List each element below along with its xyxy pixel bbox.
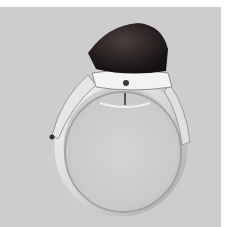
cabochon-stone bbox=[88, 23, 168, 74]
ring-band-shadow bbox=[65, 92, 181, 212]
ring-illustration bbox=[0, 7, 221, 227]
shoulder-tip-left bbox=[50, 135, 55, 140]
bezel-rivet bbox=[123, 80, 129, 86]
ring-photo bbox=[0, 7, 221, 227]
